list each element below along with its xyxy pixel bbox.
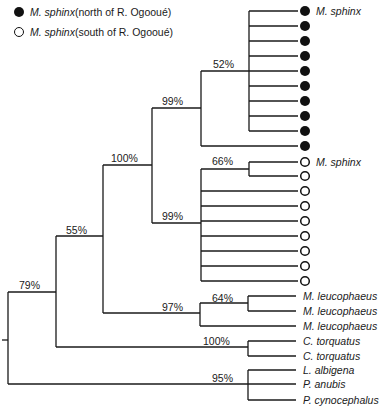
tip-label-leucophaeus-2: M. leucophaeus — [303, 305, 377, 317]
support-55: 55% — [66, 224, 87, 236]
tip-label-north: M. sphinx — [316, 5, 361, 17]
support-torquatus: 100% — [203, 335, 230, 347]
south-tip-markers — [301, 158, 310, 286]
tip-label-cynocephalus: P. cynocephalus — [303, 394, 379, 406]
filled-circle-icon — [14, 7, 24, 17]
tree-branches — [2, 11, 298, 400]
legend-species: M. sphinx — [30, 26, 75, 38]
north-tip-markers — [300, 6, 310, 151]
legend-south: M. sphinx (south of R. Ogooué) — [14, 25, 173, 39]
tip-label-leucophaeus-1: M. leucophaeus — [303, 290, 377, 302]
support-leucophaeus: 97% — [162, 301, 183, 313]
support-outgroup: 95% — [212, 372, 233, 384]
tip-label-torquatus-2: C. torquatus — [303, 350, 360, 362]
tip-label-albigena: L. albigena — [303, 364, 354, 376]
legend-north: M. sphinx (north of R. Ogooué) — [14, 5, 171, 19]
support-64: 64% — [212, 292, 233, 304]
legend-species: M. sphinx — [30, 6, 75, 18]
support-root: 79% — [19, 279, 40, 291]
tip-label-anubis: P. anubis — [303, 378, 345, 390]
legend-note: (north of R. Ogooué) — [75, 6, 171, 18]
tip-label-south: M. sphinx — [316, 156, 361, 168]
support-66: 66% — [212, 155, 233, 167]
tip-label-torquatus-1: C. torquatus — [303, 335, 360, 347]
support-100: 100% — [111, 152, 138, 164]
support-52: 52% — [213, 58, 234, 70]
tip-label-leucophaeus-3: M. leucophaeus — [303, 320, 377, 332]
legend-note: (south of R. Ogooué) — [75, 26, 173, 38]
open-circle-icon — [14, 27, 24, 37]
support-south-clade: 99% — [162, 210, 183, 222]
support-north-clade: 99% — [162, 95, 183, 107]
